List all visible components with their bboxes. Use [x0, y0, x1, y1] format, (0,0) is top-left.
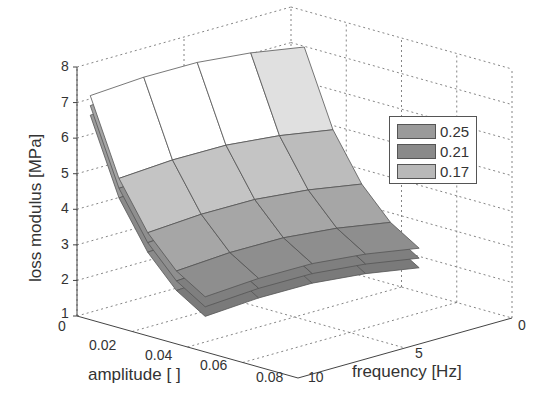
x-tick: 0.04	[145, 347, 172, 363]
z-tick: 5	[61, 165, 69, 181]
x-tick: 0.06	[200, 357, 227, 373]
legend-swatch	[397, 144, 436, 159]
y-tick: 0	[518, 317, 526, 333]
z-tick: 8	[61, 58, 69, 74]
z-axis-title: loss modulus [MPa]	[26, 134, 46, 282]
legend-swatch	[397, 124, 436, 139]
x-tick: 0	[58, 318, 66, 334]
x-tick: 0.02	[89, 337, 116, 353]
legend-label: 0.21	[440, 143, 469, 160]
y-tick: 10	[308, 369, 324, 385]
legend-item: 0.25	[397, 123, 469, 139]
surface-plot: 8 7 6 5 4 3 2 1 0 0.02 0.04 0.06 0.08 10…	[0, 0, 557, 399]
legend: 0.25 0.21 0.17	[389, 116, 477, 184]
plot-area	[0, 0, 557, 399]
legend-item: 0.21	[397, 143, 469, 159]
z-tick: 2	[61, 271, 69, 287]
legend-label: 0.17	[440, 163, 469, 180]
z-tick: 6	[61, 129, 69, 145]
legend-item: 0.17	[397, 163, 469, 179]
z-tick: 7	[61, 94, 69, 110]
z-tick: 3	[61, 236, 69, 252]
y-tick: 5	[415, 345, 423, 361]
x-axis-title: amplitude [ ]	[88, 365, 181, 385]
legend-swatch	[397, 164, 436, 179]
z-tick: 4	[61, 200, 69, 216]
y-axis-title: frequency [Hz]	[352, 362, 462, 382]
x-tick: 0.08	[256, 369, 283, 385]
legend-label: 0.25	[440, 123, 469, 140]
